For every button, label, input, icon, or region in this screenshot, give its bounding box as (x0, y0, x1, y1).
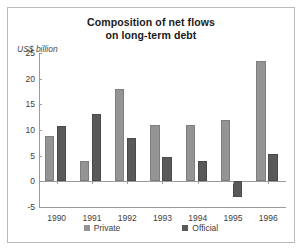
bar-group-1992: 1992 (110, 53, 145, 207)
x-axis-label-1993: 1993 (145, 213, 180, 223)
x-tick-mark-1995 (233, 181, 234, 184)
bar-group-1994: 1994 (180, 53, 215, 207)
bar-private-1994[interactable] (186, 125, 195, 181)
y-tick-label-15: 15 (13, 100, 35, 109)
bar-private-1993[interactable] (150, 125, 159, 181)
bar-official-1995[interactable] (233, 181, 242, 196)
y-tick-label-5: 5 (13, 151, 35, 160)
bars-layer: 1990 1991 1992 (39, 53, 286, 207)
x-axis-label-1994: 1994 (180, 213, 215, 223)
y-tick-label-10: 10 (13, 126, 35, 135)
legend-label-private: Private (94, 223, 120, 233)
bar-group-1993: 1993 (145, 53, 180, 207)
legend-item-private[interactable]: Private (84, 223, 120, 233)
bar-group-1996: 1996 (251, 53, 286, 207)
bar-private-1992[interactable] (115, 89, 124, 181)
x-axis-label-1992: 1992 (110, 213, 145, 223)
chart-legend: Private Official (8, 223, 294, 233)
x-tick-mark-1994 (198, 181, 199, 184)
x-tick-mark-1996 (268, 181, 269, 184)
chart-title: Composition of net flows on long-term de… (8, 16, 294, 42)
legend-item-official[interactable]: Official (182, 223, 218, 233)
bar-private-1990[interactable] (45, 136, 54, 182)
legend-swatch-private-icon (84, 225, 90, 231)
bar-private-1991[interactable] (80, 161, 89, 182)
x-tick-mark-1993 (162, 181, 163, 184)
bar-group-1995: 1995 (215, 53, 250, 207)
bar-official-1996[interactable] (268, 154, 277, 181)
x-axis-label-1995: 1995 (215, 213, 250, 223)
y-tick-label-0: 0 (13, 177, 35, 186)
bar-group-1991: 1991 (74, 53, 109, 207)
plot-area: 25 20 15 10 5 0 -5 1990 (39, 53, 286, 207)
legend-label-official: Official (192, 223, 218, 233)
bar-official-1990[interactable] (57, 126, 66, 181)
chart-title-line-1: Composition of net flows (87, 16, 215, 28)
chart-title-line-2: on long-term debt (8, 29, 294, 42)
bar-official-1993[interactable] (162, 157, 171, 182)
x-axis-label-1991: 1991 (74, 213, 109, 223)
x-axis-label-1990: 1990 (39, 213, 74, 223)
legend-swatch-official-icon (182, 225, 188, 231)
y-tick-label-20: 20 (13, 74, 35, 83)
plot-inner: 25 20 15 10 5 0 -5 1990 (39, 53, 286, 207)
x-axis-label-1996: 1996 (251, 213, 286, 223)
bar-private-1996[interactable] (256, 61, 265, 182)
x-axis-line (39, 207, 286, 208)
x-tick-mark-1991 (92, 181, 93, 184)
bar-official-1991[interactable] (92, 114, 101, 182)
y-tick-mark-minus5 (39, 207, 42, 208)
y-tick-label-25: 25 (13, 49, 35, 58)
y-tick-label-minus5: -5 (13, 203, 35, 212)
x-tick-mark-1992 (127, 181, 128, 184)
bar-official-1994[interactable] (198, 161, 207, 182)
chart-frame: Composition of net flows on long-term de… (7, 7, 295, 243)
x-tick-mark-1990 (57, 181, 58, 184)
bar-official-1992[interactable] (127, 138, 136, 182)
bar-private-1995[interactable] (221, 120, 230, 182)
bar-group-1990: 1990 (39, 53, 74, 207)
